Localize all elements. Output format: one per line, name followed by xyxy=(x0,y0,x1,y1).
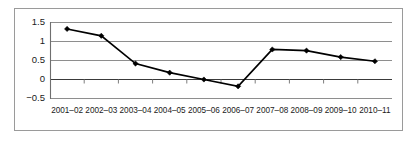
data-point-marker xyxy=(338,54,343,59)
x-tick-label: 2006–07 xyxy=(222,106,254,115)
x-tick-label: 2009–10 xyxy=(325,106,357,115)
data-point-marker xyxy=(201,77,206,82)
line-chart-figure: 1.5 1 0.5 0 −0.5 2001–02 2002–03 2003–04… xyxy=(0,0,416,141)
y-tick-label: 1 xyxy=(40,35,45,46)
chart-plot-area: 1.5 1 0.5 0 −0.5 2001–02 2002–03 2003–04… xyxy=(0,0,416,141)
x-tick-label: 2007–08 xyxy=(256,106,288,115)
data-point-marker xyxy=(372,59,377,64)
series-line xyxy=(67,29,375,86)
y-tick-label: 1.5 xyxy=(32,16,45,27)
x-tick-label: 2004–05 xyxy=(154,106,186,115)
y-tick-label: 0.5 xyxy=(32,54,45,65)
data-point-marker xyxy=(304,48,309,53)
data-point-marker xyxy=(65,26,70,31)
x-tick-label: 2002–03 xyxy=(85,106,117,115)
data-point-marker xyxy=(167,70,172,75)
x-tick-label: 2008–09 xyxy=(291,106,323,115)
x-tick-label: 2005–06 xyxy=(188,106,220,115)
y-tick-labels: 1.5 1 0.5 0 −0.5 xyxy=(26,16,45,103)
y-tick-label: 0 xyxy=(40,73,45,84)
x-tick-label: 2001–02 xyxy=(51,106,83,115)
x-tick-labels: 2001–02 2002–03 2003–04 2004–05 2005–06 … xyxy=(51,106,391,115)
y-tick-label: −0.5 xyxy=(26,92,45,103)
x-tick-label: 2010–11 xyxy=(359,106,391,115)
x-tick-label: 2003–04 xyxy=(120,106,152,115)
